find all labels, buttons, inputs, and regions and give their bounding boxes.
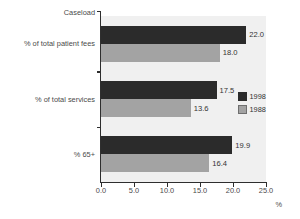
legend-swatch-1998 <box>238 92 247 101</box>
x-tick-label-5: 25.0 <box>253 186 279 195</box>
value-label-1988-group-2: 13.6 <box>194 104 209 113</box>
value-label-1998-group-3: 19.9 <box>235 141 250 150</box>
x-axis-line <box>100 182 267 183</box>
legend-swatch-1988 <box>238 105 247 114</box>
legend: 1998 1988 <box>238 91 266 117</box>
legend-item-1988: 1988 <box>238 104 266 115</box>
x-tick-label-3: 15.0 <box>187 186 213 195</box>
value-label-1988-group-1: 18.0 <box>223 48 238 57</box>
y-axis-line <box>100 11 101 182</box>
y-tick-2 <box>97 127 101 128</box>
bar-1998-group-3 <box>101 136 232 154</box>
legend-item-1998: 1998 <box>238 91 266 102</box>
category-label-1: % of total patient fees <box>24 39 95 48</box>
corner-label: Caseload <box>64 8 95 17</box>
legend-label-1988: 1988 <box>250 105 266 114</box>
x-tick-label-2: 10.0 <box>154 186 180 195</box>
category-label-3: % 65+ <box>74 150 95 159</box>
bar-1988-group-2 <box>101 99 191 117</box>
y-tick-1 <box>97 71 101 72</box>
value-label-1998-group-2: 17.5 <box>220 86 235 95</box>
value-label-1998-group-1: 22.0 <box>249 30 264 39</box>
bar-1998-group-2 <box>101 81 217 99</box>
x-tick-label-0: 0.0 <box>88 186 114 195</box>
bar-1998-group-1 <box>101 26 246 44</box>
y-tick-top <box>97 11 101 12</box>
legend-label-1998: 1998 <box>250 92 266 101</box>
category-label-2: % of total services <box>35 95 95 104</box>
value-label-1988-group-3: 16.4 <box>212 159 227 168</box>
bar-chart: Caseload % of total patient fees% of tot… <box>0 0 300 219</box>
bar-1988-group-1 <box>101 44 220 62</box>
x-axis-title: % <box>275 200 282 209</box>
x-tick-label-4: 20.0 <box>220 186 246 195</box>
x-tick-label-1: 5.0 <box>121 186 147 195</box>
bar-1988-group-3 <box>101 154 209 172</box>
